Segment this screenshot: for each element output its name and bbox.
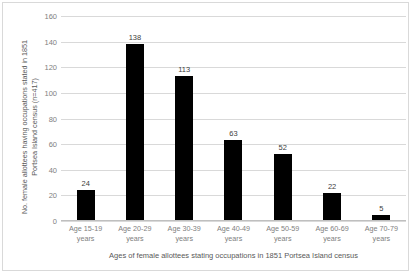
x-axis-tick-label-line: Age 60-69 — [315, 224, 348, 233]
x-axis-tick-label-line: Age 30-39 — [168, 224, 201, 233]
bar-value-label: 63 — [229, 129, 237, 138]
y-axis-tick-label: 40 — [49, 165, 57, 174]
x-axis-tick-label-line: years — [373, 234, 391, 243]
bar-slot: 24 — [61, 16, 110, 221]
x-axis-tick-labels: Age 15-19yearsAge 20-29yearsAge 30-39yea… — [61, 224, 406, 250]
y-axis-tick-label: 120 — [44, 63, 57, 72]
x-axis-tick-label-line: Age 15-19 — [69, 224, 102, 233]
y-axis-tick-label: 160 — [44, 12, 57, 21]
x-axis-tick-label-line: years — [323, 234, 341, 243]
x-axis-tick-label-line: Age 40-49 — [217, 224, 250, 233]
bar[interactable] — [175, 76, 193, 221]
chart-container: No. female allottees having occupations … — [2, 2, 409, 271]
bar-slot: 63 — [209, 16, 258, 221]
x-axis-tick-label-line: Age 50-59 — [266, 224, 299, 233]
bar-slot: 52 — [258, 16, 307, 221]
y-axis-tick-label: 60 — [49, 140, 57, 149]
x-axis-tick-label-line: years — [175, 234, 193, 243]
x-axis-tick-label: Age 30-39years — [160, 224, 209, 243]
y-axis-tick-label: 100 — [44, 88, 57, 97]
x-axis-tick-label: Age 60-69years — [307, 224, 356, 243]
bar-value-label: 5 — [379, 204, 383, 213]
y-axis-tick-label: 140 — [44, 37, 57, 46]
x-axis-tick-label: Age 40-49years — [209, 224, 258, 243]
x-axis-tick-label-line: Age 20-29 — [118, 224, 151, 233]
x-axis-tick-label: Age 70-79years — [357, 224, 406, 243]
bar-slot: 22 — [307, 16, 356, 221]
bar-slot: 138 — [110, 16, 159, 221]
bar[interactable] — [224, 140, 242, 221]
y-axis-title-line-1: No. female allottees having occupations … — [20, 40, 29, 214]
y-axis-title: No. female allottees having occupations … — [13, 21, 47, 233]
x-axis-tick-label-line: years — [225, 234, 243, 243]
x-axis-title: Ages of female allottees stating occupat… — [61, 251, 406, 260]
y-axis-tick-label: 20 — [49, 191, 57, 200]
x-axis-tick-label-line: years — [126, 234, 144, 243]
bar-value-label: 113 — [178, 65, 190, 74]
bar[interactable] — [323, 193, 341, 221]
y-axis-tick-label: 80 — [49, 114, 57, 123]
bar-value-label: 24 — [81, 179, 89, 188]
bar[interactable] — [126, 44, 144, 221]
x-axis-tick-label-line: years — [77, 234, 95, 243]
x-axis-tick-label-line: Age 70-79 — [365, 224, 398, 233]
bar[interactable] — [274, 154, 292, 221]
y-axis-tick-label: 0 — [53, 217, 57, 226]
bar-value-label: 52 — [279, 143, 287, 152]
x-axis-tick-label: Age 15-19years — [61, 224, 110, 243]
bar-slot: 5 — [357, 16, 406, 221]
bar[interactable] — [77, 190, 95, 221]
bar-value-label: 138 — [129, 33, 142, 42]
x-axis-tick-label-line: years — [274, 234, 292, 243]
x-axis-line — [61, 220, 406, 221]
bar-value-label: 22 — [328, 182, 336, 191]
x-axis-tick-label: Age 50-59years — [258, 224, 307, 243]
gridline — [61, 221, 406, 222]
bar-slot: 113 — [160, 16, 209, 221]
x-axis-tick-label: Age 20-29years — [110, 224, 159, 243]
y-axis-title-line-2: Portsea Island census (n=417) — [30, 78, 39, 176]
plot-area: 020406080100120140160 241381136352225 — [61, 16, 406, 221]
